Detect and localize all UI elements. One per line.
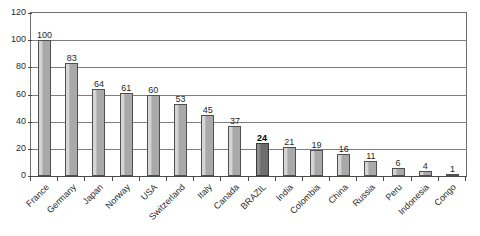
- x-axis-tickmark: [30, 177, 31, 181]
- bar-slot: 83: [58, 13, 85, 176]
- y-axis-tick-label: 80: [0, 62, 26, 71]
- bar-highlighted: 24: [256, 143, 269, 176]
- bar: 60: [147, 95, 160, 177]
- x-axis-category-label-text: India: [274, 182, 295, 203]
- bar-value-label: 4: [423, 161, 428, 171]
- bar-series: 100836461605345372421191611641: [31, 13, 466, 176]
- x-axis-tickmark: [193, 177, 194, 181]
- x-axis-category-label-text: Japan: [81, 182, 105, 206]
- bar-value-label: 83: [67, 53, 77, 63]
- x-axis-tickmark: [411, 177, 412, 181]
- bar-chart: 020406080100120 100836461605345372421191…: [0, 0, 480, 236]
- bar-slot: 60: [140, 13, 167, 176]
- bar-slot: 4: [412, 13, 439, 176]
- plot-area: 100836461605345372421191611641: [30, 12, 467, 177]
- bar-slot: 1: [439, 13, 466, 176]
- bar-value-label: 21: [284, 137, 294, 147]
- y-axis-tick-label: 60: [0, 90, 26, 99]
- bar-value-label: 60: [148, 85, 158, 95]
- bar-value-label: 37: [230, 116, 240, 126]
- x-axis-tickmark: [302, 177, 303, 181]
- x-axis-tickmark: [356, 177, 357, 181]
- bar: 100: [38, 40, 51, 176]
- y-axis-tick-labels: 020406080100120: [0, 0, 26, 236]
- bar-slot: 61: [113, 13, 140, 176]
- x-axis-category-label-text: Italy: [195, 182, 214, 201]
- x-axis-tickmark: [438, 177, 439, 181]
- x-axis-category-label-text: Congo: [433, 182, 459, 208]
- x-axis-category-label-text: China: [326, 182, 350, 206]
- y-axis-tick-label: 100: [0, 35, 26, 44]
- bar-value-label: 64: [94, 79, 104, 89]
- x-axis-category-labels: FranceGermanyJapanNorwayUSASwitzerlandIt…: [30, 182, 467, 236]
- bar-slot: 37: [221, 13, 248, 176]
- y-axis-tick-label: 20: [0, 144, 26, 153]
- bar: 4: [419, 171, 432, 176]
- bar: 61: [120, 93, 133, 176]
- bar-value-label: 6: [396, 158, 401, 168]
- bar: 19: [310, 150, 323, 176]
- y-axis-tick-label: 40: [0, 117, 26, 126]
- bar: 1: [446, 174, 459, 176]
- bar: 83: [65, 63, 78, 176]
- x-axis-category-label-text: USA: [139, 182, 159, 202]
- bar-slot: 53: [167, 13, 194, 176]
- bar-slot: 19: [303, 13, 330, 176]
- bar-slot: 64: [85, 13, 112, 176]
- bar: 64: [92, 89, 105, 176]
- bar: 16: [337, 154, 350, 176]
- x-axis-tickmark: [57, 177, 58, 181]
- bar-value-label: 61: [121, 83, 131, 93]
- x-axis-tickmark: [248, 177, 249, 181]
- bar: 53: [174, 104, 187, 176]
- y-axis-tick-label: 0: [0, 171, 26, 180]
- x-axis-category-label-text: Peru: [384, 182, 405, 203]
- x-axis-tickmark: [329, 177, 330, 181]
- bar-slot: 16: [330, 13, 357, 176]
- bar-slot: 100: [31, 13, 58, 176]
- bar: 37: [228, 126, 241, 176]
- y-axis-tick-label: 120: [0, 8, 26, 17]
- bar-value-label: 16: [339, 144, 349, 154]
- bar-value-label: 24: [257, 133, 267, 143]
- bar-value-label: 53: [176, 94, 186, 104]
- bar-value-label: 100: [37, 30, 52, 40]
- bar-slot: 11: [357, 13, 384, 176]
- bar: 45: [201, 115, 214, 176]
- x-axis-tickmark: [220, 177, 221, 181]
- bar: 21: [283, 147, 296, 176]
- x-axis-tickmark: [112, 177, 113, 181]
- bar-slot: 21: [276, 13, 303, 176]
- bar-slot: 24: [249, 13, 276, 176]
- x-axis-tickmark: [275, 177, 276, 181]
- bar: 6: [392, 168, 405, 176]
- bar-slot: 45: [194, 13, 221, 176]
- bar-value-label: 11: [366, 151, 375, 161]
- bar-slot: 6: [384, 13, 411, 176]
- x-axis-tickmark: [84, 177, 85, 181]
- x-axis-tickmark: [166, 177, 167, 181]
- bar-value-label: 19: [311, 140, 321, 150]
- x-axis-tickmark: [139, 177, 140, 181]
- x-axis-tickmark: [383, 177, 384, 181]
- bar: 11: [364, 161, 377, 176]
- bar-value-label: 1: [450, 164, 455, 174]
- x-axis-tickmark: [465, 177, 466, 181]
- bar-value-label: 45: [203, 105, 213, 115]
